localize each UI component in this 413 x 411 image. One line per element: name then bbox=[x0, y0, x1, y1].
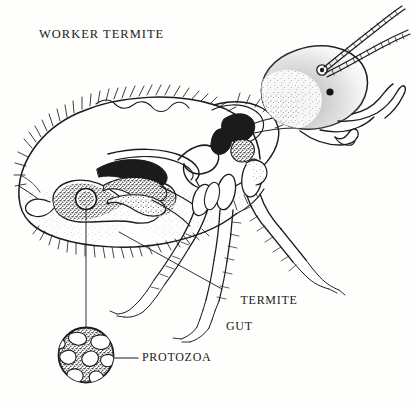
termite-gut-label-line1: TERMITE bbox=[241, 293, 298, 307]
protozoa-inset bbox=[55, 328, 115, 385]
termite-illustration-figure: WORKER TERMITE TERMITE GUT PROTOZOA bbox=[0, 0, 413, 411]
eye bbox=[326, 88, 333, 95]
termite-gut-label: TERMITE GUT bbox=[226, 281, 297, 359]
protozoa-label: PROTOZOA bbox=[142, 351, 211, 364]
gut-leader-line bbox=[119, 232, 222, 289]
termite-gut-label-line2: GUT bbox=[226, 320, 297, 333]
protozoa-source-circle bbox=[76, 189, 97, 210]
page-title: WORKER TERMITE bbox=[39, 28, 164, 42]
leg-front bbox=[239, 158, 345, 295]
